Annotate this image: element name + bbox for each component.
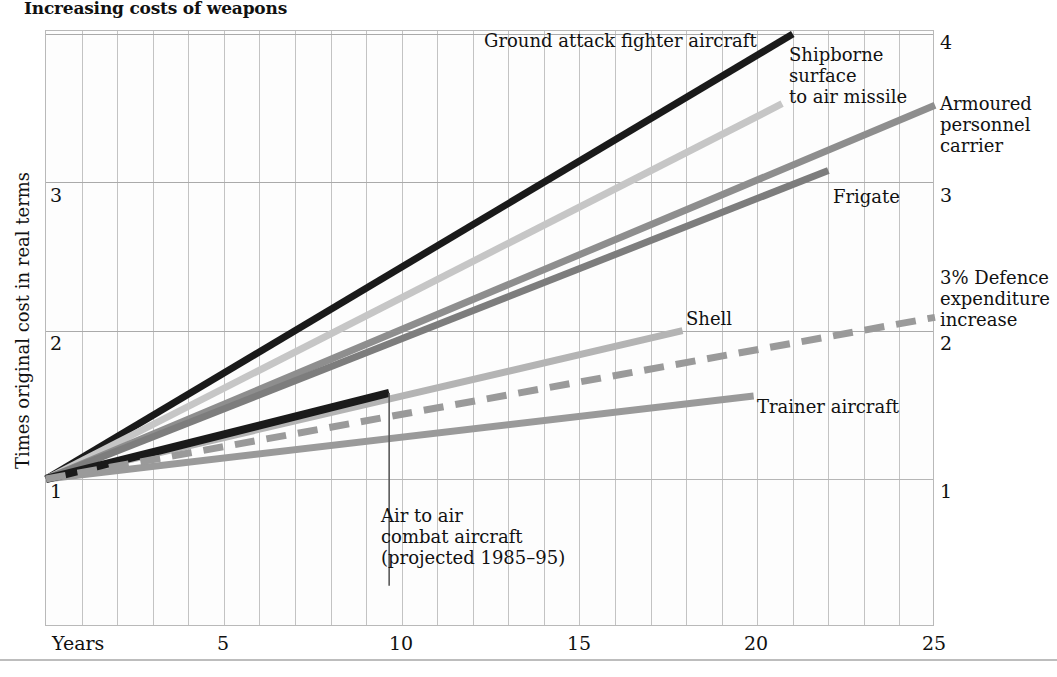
y-tick-right-1: 1	[940, 482, 952, 501]
footer-divider	[0, 659, 1057, 661]
x-tick-10: 10	[389, 632, 413, 654]
series-line	[46, 104, 782, 479]
annotation-trainer-aircraft: Trainer aircraft	[757, 396, 899, 417]
annotation-defence-expenditure-increase: 3% Defence expenditure increase	[940, 267, 1050, 330]
y-tick-right-3: 3	[940, 186, 952, 205]
y-tick-left-3: 3	[50, 186, 62, 205]
y-tick-right-4: 4	[940, 33, 952, 52]
chart-container: Increasing costs of weapons 3 2 1 4 3 2 …	[0, 0, 1057, 677]
x-tick-25: 25	[922, 632, 946, 654]
series-line	[46, 34, 793, 479]
chart-title: Increasing costs of weapons	[24, 0, 287, 18]
x-tick-5: 5	[217, 632, 229, 654]
annotation-shell: Shell	[686, 308, 732, 329]
annotation-air-to-air-combat-aircraft: Air to air combat aircraft (projected 19…	[381, 505, 565, 568]
y-axis-label: Times original cost in real terms	[12, 61, 33, 581]
x-axis-label-years: Years	[52, 632, 104, 654]
x-tick-20: 20	[744, 632, 768, 654]
annotation-frigate: Frigate	[833, 186, 900, 207]
y-tick-right-2: 2	[940, 334, 952, 353]
annotation-armoured-personnel-carrier: Armoured personnel carrier	[940, 93, 1032, 156]
annotation-ground-attack-fighter-aircraft: Ground attack fighter aircraft	[484, 30, 757, 51]
y-tick-left-2: 2	[50, 334, 62, 353]
annotation-shipborne-surface-to-air-missile: Shipborne surface to air missile	[789, 44, 907, 107]
y-tick-left-1: 1	[50, 482, 62, 501]
x-tick-15: 15	[567, 632, 591, 654]
